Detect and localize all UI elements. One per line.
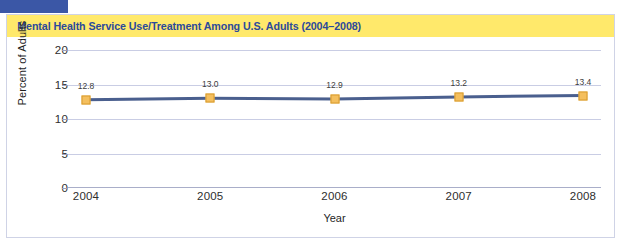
data-point-label: 12.9 [326, 80, 343, 90]
x-axis-tick-label: 2008 [570, 190, 596, 202]
x-axis-tick-labels: 20042005200620072008 [68, 190, 601, 206]
data-point-marker [330, 94, 339, 103]
gridline [68, 119, 601, 120]
x-axis-tick-label: 2006 [321, 190, 347, 202]
y-axis: 05101520 [34, 50, 68, 188]
data-point-label: 13.0 [202, 79, 219, 89]
page-title: Mental Health Service Use/Treatment Amon… [7, 20, 361, 32]
data-point-marker [579, 91, 588, 100]
data-point-label: 12.8 [78, 81, 95, 91]
data-point-marker [82, 95, 91, 104]
data-point-marker [454, 92, 463, 101]
gridline [68, 50, 601, 51]
x-axis-title: Year [68, 212, 601, 224]
x-axis-tick-label: 2007 [446, 190, 472, 202]
data-point-marker [206, 94, 215, 103]
y-axis-title: Percent of Adults [16, 0, 30, 128]
y-axis-tick-mark [62, 188, 68, 189]
gridline [68, 154, 601, 155]
x-axis-tick-label: 2005 [197, 190, 223, 202]
chart-title-band: Mental Health Service Use/Treatment Amon… [7, 15, 614, 37]
data-point-label: 13.4 [575, 77, 592, 87]
data-point-label: 13.2 [450, 78, 467, 88]
x-axis-tick-label: 2004 [73, 190, 99, 202]
plot-area: 12.813.012.913.213.4 [68, 50, 601, 188]
corner-accent-block [0, 0, 68, 13]
chart-figure: Mental Health Service Use/Treatment Amon… [0, 0, 622, 252]
